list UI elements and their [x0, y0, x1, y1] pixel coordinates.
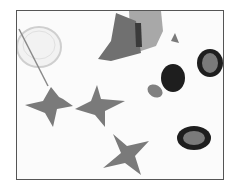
o-shapes	[161, 49, 223, 150]
o-solid-dark	[161, 64, 185, 92]
illustration-frame	[16, 10, 224, 180]
x-shape-3	[103, 134, 149, 175]
craft-illustration	[17, 11, 224, 180]
x-shape-1	[25, 87, 73, 127]
triangle-shape	[171, 33, 179, 43]
hand-with-paper	[98, 11, 163, 61]
glass-dish	[17, 27, 61, 67]
x-shapes	[25, 85, 149, 175]
x-shape-2	[75, 85, 125, 127]
gray-oval	[145, 82, 165, 100]
